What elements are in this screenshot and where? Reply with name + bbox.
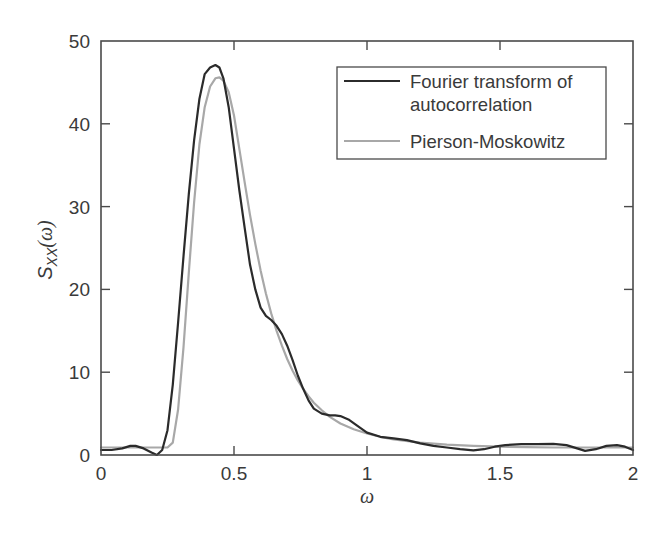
y-tick-label: 0: [79, 445, 90, 466]
legend-label-fourier-line2: autocorrelation: [410, 94, 532, 115]
x-tick-label: 0.5: [221, 463, 247, 484]
y-tick-label: 20: [69, 279, 90, 300]
x-tick-label: 2: [628, 463, 639, 484]
x-tick-label: 1: [362, 463, 373, 484]
legend-label-pierson-moskowitz: Pierson-Moskowitz: [410, 131, 565, 152]
legend: Fourier transform of autocorrelation Pie…: [337, 67, 606, 159]
y-tick-label: 50: [69, 31, 90, 52]
y-axis-label: SXX(ω): [34, 220, 60, 280]
chart: 00.511.5201020304050 Fourier transform o…: [0, 0, 666, 538]
x-tick-label: 0: [96, 463, 107, 484]
y-tick-label: 40: [69, 114, 90, 135]
y-axis-label-sub: XX: [44, 247, 60, 267]
y-axis-label-main: S: [34, 266, 56, 280]
y-tick-label: 30: [69, 197, 90, 218]
x-axis-label: ω: [360, 485, 374, 507]
legend-label-fourier-line1: Fourier transform of: [410, 71, 573, 92]
svg-text:SXX(ω): SXX(ω): [34, 220, 60, 280]
y-tick-label: 10: [69, 362, 90, 383]
y-axis-label-tail: (ω): [34, 220, 57, 248]
x-tick-label: 1.5: [487, 463, 513, 484]
